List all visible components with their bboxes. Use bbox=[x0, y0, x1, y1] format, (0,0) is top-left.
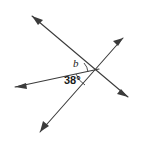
ray-left-horizontal bbox=[15, 69, 99, 87]
geometry-canvas bbox=[0, 0, 144, 142]
arrowhead-lower-right-icon bbox=[117, 89, 128, 97]
line-lowerleft-to-upperright bbox=[40, 38, 123, 132]
arrowhead-upper-right-icon bbox=[113, 38, 123, 46]
angle-label-b: b bbox=[73, 58, 79, 69]
arrowhead-left-icon bbox=[15, 83, 27, 89]
angle-diagram-figure: b 38° bbox=[0, 0, 144, 142]
arc-angle-b bbox=[84, 63, 88, 72]
angle-label-38-degrees: 38° bbox=[64, 75, 81, 86]
